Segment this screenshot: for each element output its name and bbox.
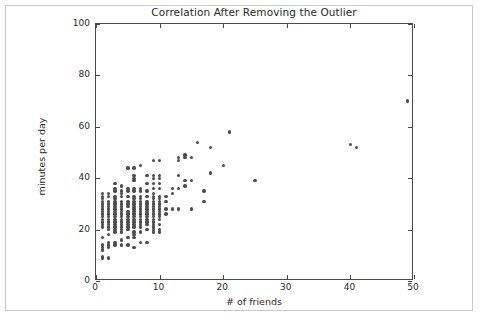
scatter-point <box>126 243 129 246</box>
x-tick-mark-top <box>160 24 161 28</box>
scatter-point <box>190 156 193 159</box>
scatter-point <box>164 195 167 198</box>
x-tick-mark <box>350 275 351 279</box>
scatter-plot-area <box>96 24 412 279</box>
x-axis-label: # of friends <box>95 296 413 307</box>
scatter-point <box>113 187 116 190</box>
scatter-point <box>132 236 135 239</box>
x-tick-mark <box>287 275 288 279</box>
scatter-point <box>107 256 110 259</box>
scatter-point <box>152 200 155 203</box>
scatter-point <box>158 223 161 226</box>
scatter-point <box>101 218 104 221</box>
scatter-point <box>253 179 256 182</box>
scatter-point <box>190 179 193 182</box>
x-tick-label: 40 <box>344 282 355 292</box>
scatter-point <box>113 182 116 185</box>
scatter-point <box>113 218 116 221</box>
y-tick-label: 60 <box>64 121 90 131</box>
scatter-point <box>120 189 123 192</box>
scatter-point <box>177 174 180 177</box>
scatter-point <box>132 200 135 203</box>
scatter-point <box>139 164 142 167</box>
y-tick-label: 20 <box>64 224 90 234</box>
y-tick-mark-right <box>408 127 412 128</box>
scatter-point <box>139 241 142 244</box>
scatter-point <box>139 195 142 198</box>
figure-canvas: Correlation After Removing the Outlier #… <box>0 0 480 320</box>
scatter-point <box>145 218 148 221</box>
scatter-point <box>177 207 180 210</box>
scatter-point <box>132 218 135 221</box>
scatter-point <box>145 228 148 231</box>
x-tick-mark-top <box>414 24 415 28</box>
scatter-point <box>132 195 135 198</box>
x-tick-mark-top <box>350 24 351 28</box>
scatter-point <box>132 230 135 233</box>
x-tick-mark <box>414 275 415 279</box>
x-tick-label: 30 <box>280 282 291 292</box>
y-tick-mark <box>96 127 100 128</box>
scatter-point <box>120 184 123 187</box>
scatter-point <box>222 164 225 167</box>
scatter-point <box>126 166 129 169</box>
scatter-point <box>158 218 161 221</box>
scatter-point <box>126 210 129 213</box>
scatter-point <box>183 153 186 156</box>
y-tick-mark-right <box>408 230 412 231</box>
scatter-point <box>158 177 161 180</box>
scatter-point <box>202 189 205 192</box>
scatter-point <box>196 141 199 144</box>
x-tick-label: 0 <box>92 282 98 292</box>
scatter-point <box>113 195 116 198</box>
y-tick-label: 40 <box>64 172 90 182</box>
y-tick-label: 100 <box>64 18 90 28</box>
y-tick-mark-right <box>408 24 412 25</box>
y-axis-label: minutes per day <box>36 97 47 217</box>
scatter-point <box>113 200 116 203</box>
scatter-point <box>132 246 135 249</box>
scatter-point <box>145 182 148 185</box>
scatter-point <box>164 212 167 215</box>
scatter-point <box>177 187 180 190</box>
scatter-point <box>132 187 135 190</box>
scatter-point <box>171 187 174 190</box>
scatter-point <box>228 130 231 133</box>
scatter-point <box>171 192 174 195</box>
scatter-point <box>209 146 212 149</box>
scatter-point <box>406 99 409 102</box>
x-tick-label: 50 <box>407 282 418 292</box>
scatter-point <box>158 182 161 185</box>
y-tick-mark <box>96 178 100 179</box>
plot-axes-frame <box>95 23 413 280</box>
scatter-point <box>177 159 180 162</box>
scatter-point <box>107 192 110 195</box>
y-tick-mark <box>96 24 100 25</box>
x-tick-mark-top <box>287 24 288 28</box>
scatter-point <box>120 243 123 246</box>
scatter-point <box>158 187 161 190</box>
x-tick-mark <box>96 275 97 279</box>
scatter-point <box>355 146 358 149</box>
y-tick-mark <box>96 230 100 231</box>
y-tick-mark-right <box>408 75 412 76</box>
y-tick-label: 80 <box>64 69 90 79</box>
scatter-point <box>152 182 155 185</box>
scatter-point <box>145 189 148 192</box>
scatter-point <box>101 200 104 203</box>
scatter-point <box>113 241 116 244</box>
scatter-point <box>349 143 352 146</box>
y-tick-mark-right <box>408 178 412 179</box>
scatter-point <box>209 171 212 174</box>
scatter-point <box>101 236 104 239</box>
scatter-point <box>126 200 129 203</box>
scatter-point <box>132 166 135 169</box>
scatter-point <box>107 233 110 236</box>
scatter-point <box>158 159 161 162</box>
scatter-point <box>177 156 180 159</box>
scatter-point <box>145 200 148 203</box>
x-tick-mark-top <box>223 24 224 28</box>
scatter-point <box>152 159 155 162</box>
scatter-point <box>139 230 142 233</box>
scatter-point <box>152 187 155 190</box>
